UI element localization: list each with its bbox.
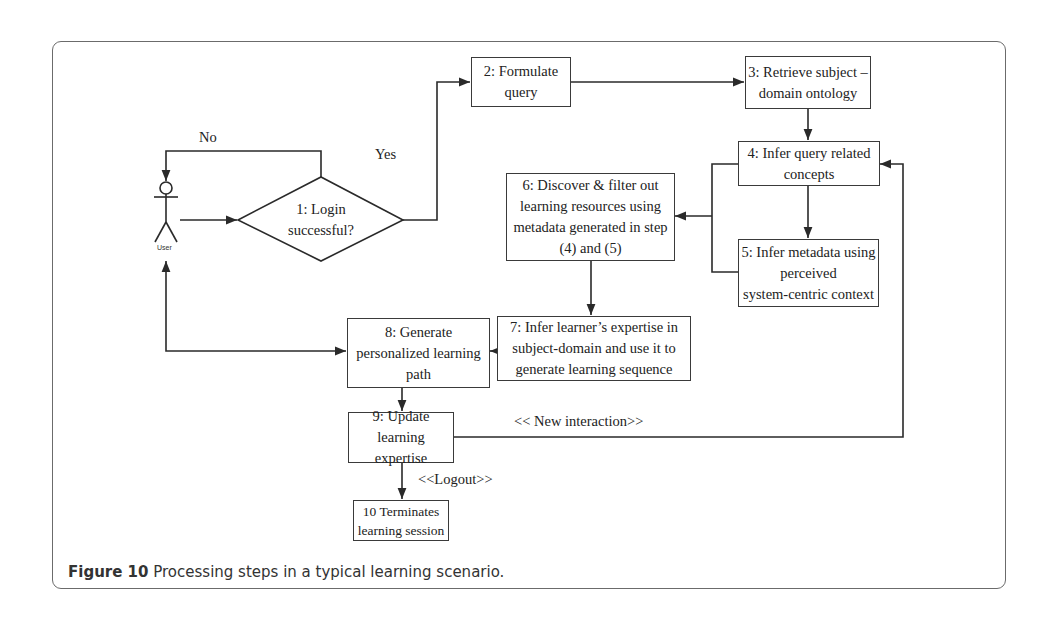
decision-login-successful: 1: Login successful? — [271, 199, 371, 241]
step-7-infer-expertise: 7: Infer learner’s expertise in subject-… — [497, 316, 691, 381]
step-9-update-expertise: 9: Update learning expertise — [348, 412, 454, 463]
figure-caption-label: Figure 10 — [68, 563, 148, 581]
step-10-terminate-session: 10 Terminates learning session — [353, 500, 449, 541]
step-2-formulate-query: 2: Formulate query — [471, 57, 571, 107]
yes-edge-label: Yes — [375, 146, 396, 163]
no-edge-label: No — [199, 129, 217, 146]
logout-edge-label: <<Logout>> — [418, 471, 493, 488]
step-3-retrieve-ontology: 3: Retrieve subject – domain ontology — [745, 56, 871, 109]
step-5-infer-metadata: 5: Infer metadata using perceived system… — [738, 239, 879, 307]
figure-caption-text: Processing steps in a typical learning s… — [148, 563, 504, 581]
step-4-infer-concepts: 4: Infer query related concepts — [738, 141, 880, 186]
figure-caption: Figure 10 Processing steps in a typical … — [68, 563, 504, 581]
user-actor-icon — [154, 182, 178, 242]
step-8-generate-path: 8: Generate personalized learning path — [347, 318, 490, 388]
step-6-discover-resources: 6: Discover & filter out learning resour… — [506, 173, 675, 261]
new-interaction-edge-label: << New interaction>> — [514, 413, 643, 430]
user-actor-label: User — [157, 244, 172, 251]
